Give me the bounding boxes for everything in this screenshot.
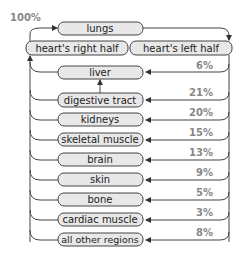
svg-text:heart's left half: heart's left half bbox=[143, 43, 219, 54]
svg-text:15%: 15% bbox=[189, 127, 213, 138]
blood-flow-diagram: 100% lungs heart's right half heart's le… bbox=[0, 0, 247, 261]
svg-text:bone: bone bbox=[88, 194, 113, 205]
svg-text:skin: skin bbox=[90, 174, 110, 185]
organ-digestive-tract: digestive tract 21% bbox=[30, 87, 229, 107]
svg-text:skeletal muscle: skeletal muscle bbox=[61, 134, 138, 145]
svg-text:all other regions: all other regions bbox=[61, 234, 138, 245]
lungs-node: lungs bbox=[58, 22, 143, 35]
svg-text:5%: 5% bbox=[196, 187, 213, 198]
organ-all-other-regions: all other regions 8% bbox=[30, 227, 229, 246]
svg-text:brain: brain bbox=[87, 154, 113, 165]
flow-to-lungs-arrow bbox=[30, 28, 57, 41]
svg-text:6%: 6% bbox=[196, 60, 213, 71]
svg-text:21%: 21% bbox=[189, 87, 213, 98]
heart-left-half-node: heart's left half bbox=[130, 41, 232, 55]
organ-cardiac-muscle: cardiac muscle 3% bbox=[30, 207, 229, 226]
heart-right-half-node: heart's right half bbox=[26, 41, 128, 55]
svg-text:8%: 8% bbox=[196, 227, 213, 238]
svg-text:13%: 13% bbox=[189, 147, 213, 158]
organ-skin: skin 9% bbox=[30, 167, 229, 186]
organ-kidneys: kidneys 20% bbox=[30, 107, 229, 126]
svg-text:kidneys: kidneys bbox=[81, 114, 120, 125]
svg-text:digestive tract: digestive tract bbox=[64, 95, 136, 106]
organ-bone: bone 5% bbox=[30, 187, 229, 206]
svg-text:heart's right half: heart's right half bbox=[35, 43, 119, 54]
total-percent-label: 100% bbox=[10, 12, 41, 23]
svg-text:lungs: lungs bbox=[86, 23, 113, 34]
organ-brain: brain 13% bbox=[30, 147, 229, 166]
svg-text:20%: 20% bbox=[189, 107, 213, 118]
organ-liver: liver 6% bbox=[30, 60, 229, 79]
svg-text:cardiac muscle: cardiac muscle bbox=[62, 214, 137, 225]
svg-text:9%: 9% bbox=[196, 167, 213, 178]
organ-skeletal-muscle: skeletal muscle 15% bbox=[30, 127, 229, 146]
svg-text:3%: 3% bbox=[196, 207, 213, 218]
flow-to-left-heart-arrow bbox=[143, 28, 229, 40]
svg-text:liver: liver bbox=[89, 67, 112, 78]
